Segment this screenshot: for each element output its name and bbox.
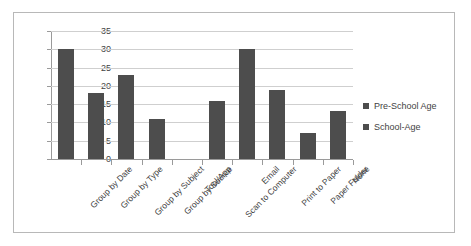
bar-slot [262,31,292,159]
bar-slot [142,31,172,159]
legend-item[interactable]: Pre-School Age [363,101,451,111]
x-axis-tick-mark [111,160,112,165]
chart-legend: Pre-School AgeSchool-Age [363,101,451,143]
chart-frame: 05101520253035 Group by DateGroup by Typ… [13,12,455,233]
x-axis-tick-mark [323,160,324,165]
bar-slot [81,31,111,159]
bar [149,119,165,159]
bar-slot [232,31,262,159]
bar-slot [293,31,323,159]
x-axis-tick-mark [262,160,263,165]
bar-slot [111,31,141,159]
bar [330,111,346,159]
bar-slot [51,31,81,159]
plot-area [51,31,353,159]
x-axis-labels: Group by DateGroup by TypeGroup by Subje… [51,164,353,228]
x-axis-tick-mark [232,160,233,165]
x-axis-tick-mark [142,160,143,165]
x-axis-category-label: None [350,164,371,185]
bar [300,133,316,159]
bar [118,75,134,159]
legend-item[interactable]: School-Age [363,122,451,132]
bar [269,90,285,159]
bar [88,93,104,159]
x-axis-tick-mark [172,160,173,165]
x-axis-tick-mark [81,160,82,165]
legend-swatch-icon [363,103,369,109]
x-axis-tick-mark [353,160,354,165]
bar [209,101,225,160]
bar-slot [172,31,202,159]
legend-label: Pre-School Age [374,101,437,111]
legend-swatch-icon [363,124,369,130]
x-axis-tick-mark [293,160,294,165]
bar-slot [323,31,353,159]
x-axis-tick-mark [202,160,203,165]
bar-slot [202,31,232,159]
legend-label: School-Age [374,122,421,132]
bar [239,49,255,159]
x-axis-category-label: Tool/App [203,164,233,194]
x-axis-label-wrapper: Tool/App [203,164,233,194]
x-axis-label-wrapper: None [350,164,371,185]
bar [58,49,74,159]
